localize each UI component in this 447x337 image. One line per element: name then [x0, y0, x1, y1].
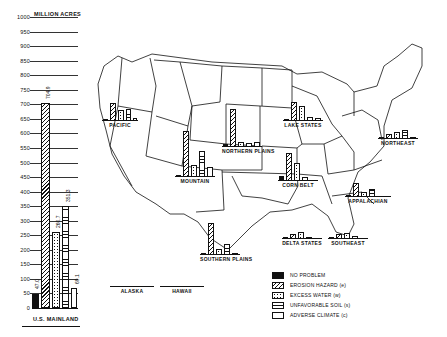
- y-tick: 850: [2, 58, 30, 64]
- y-tick: 800: [2, 72, 30, 78]
- bar-erosion-hazard: [208, 223, 214, 255]
- legend-item: EXCESS WATER (w): [272, 290, 350, 300]
- y-tick: 200: [2, 247, 30, 253]
- bar-erosion-hazard: [41, 103, 50, 308]
- bar-erosion-hazard: [110, 103, 116, 121]
- bar-unfavorable-soil: [199, 151, 205, 177]
- y-tick: 950: [2, 29, 30, 35]
- y-tick: 550: [2, 145, 30, 151]
- legend-item: EROSION HAZARD (e): [272, 280, 350, 290]
- bar-excess-water: [52, 232, 60, 308]
- legend-item: UNFAVORABLE SOIL (s): [272, 300, 350, 310]
- y-tick: 650: [2, 116, 30, 122]
- y-tick: 300: [2, 218, 30, 224]
- region-label: MOUNTAIN: [175, 178, 215, 184]
- mainland-baseline: [32, 308, 78, 309]
- y-tick: 150: [2, 261, 30, 267]
- legend-item: NO PROBLEM: [272, 270, 350, 280]
- y-tick: 350: [2, 203, 30, 209]
- region-delta-states: DELTA STATES: [282, 214, 322, 246]
- y-tick: 700: [2, 101, 30, 107]
- y-tick: 750: [2, 87, 30, 93]
- legend: NO PROBLEM EROSION HAZARD (e) EXCESS WAT…: [272, 270, 350, 320]
- region-mountain: MOUNTAIN: [175, 108, 215, 184]
- region-southern-plains: SOUTHERN PLAINS: [200, 206, 240, 262]
- mainland-bar-group: [32, 0, 78, 308]
- y-tick: 400: [2, 189, 30, 195]
- y-tick: 500: [2, 160, 30, 166]
- region-label: PACIFIC: [102, 122, 138, 128]
- value-label: 260.7: [55, 215, 61, 228]
- region-southeast: SOUTHEAST: [328, 216, 368, 246]
- baseline: [328, 238, 368, 239]
- swatch-adverse-climate: [272, 312, 284, 319]
- bar-erosion-hazard: [291, 102, 297, 121]
- swatch-erosion: [272, 282, 284, 289]
- value-label: 351.3: [65, 189, 71, 202]
- region-label: ALASKA: [110, 288, 154, 294]
- baseline: [200, 254, 240, 255]
- mainland-label: U.S. MAINLAND: [33, 316, 78, 322]
- value-label: 704.9: [45, 86, 51, 99]
- y-tick: 250: [2, 232, 30, 238]
- bar-adverse-climate: [71, 288, 77, 308]
- baseline: [175, 176, 215, 177]
- legend-item: ADVERSE CLIMATE (c): [272, 310, 350, 320]
- baseline: [110, 286, 154, 287]
- region-label: SOUTHERN PLAINS: [200, 256, 240, 262]
- y-tick: 50: [2, 290, 30, 296]
- y-tick: 600: [2, 130, 30, 136]
- swatch-unfavorable-soil: [272, 302, 284, 309]
- bar-unfavorable-soil: [62, 206, 69, 308]
- y-tick: 100: [2, 276, 30, 282]
- region-label: HAWAII: [160, 288, 204, 294]
- value-label: 47.0: [34, 279, 40, 289]
- region-label: DELTA STATES: [282, 240, 322, 246]
- region-label: NORTHERN PLAINS: [222, 148, 262, 154]
- bar-excess-water: [299, 106, 305, 121]
- bar-erosion-hazard: [230, 109, 236, 147]
- baseline: [160, 286, 204, 287]
- y-tick: 900: [2, 43, 30, 49]
- y-tick: 1000: [2, 14, 30, 20]
- region-label: SOUTHEAST: [328, 240, 368, 246]
- y-tick: 450: [2, 174, 30, 180]
- bar-no-problem: [32, 294, 39, 308]
- baseline: [282, 238, 322, 239]
- divider: [22, 326, 80, 327]
- region-hawaii: HAWAII: [160, 270, 204, 294]
- baseline: [222, 146, 262, 147]
- y-tick: 0: [2, 305, 30, 311]
- bar-erosion-hazard: [286, 153, 292, 181]
- swatch-excess-water: [272, 292, 284, 299]
- baseline: [102, 120, 138, 121]
- region-northern-plains: NORTHERN PLAINS: [222, 92, 262, 154]
- region-pacific: PACIFIC: [102, 56, 138, 128]
- swatch-no-problem: [272, 272, 284, 279]
- value-label: 69.1: [74, 274, 80, 284]
- bar-erosion-hazard: [183, 131, 189, 177]
- region-alaska: ALASKA: [110, 270, 154, 294]
